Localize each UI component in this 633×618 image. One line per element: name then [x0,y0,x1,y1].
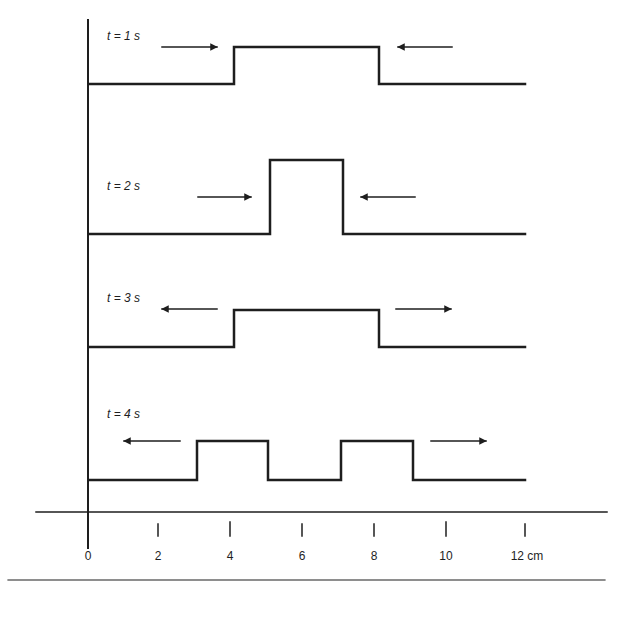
panel-label-t3: t = 3 s [107,291,140,305]
diagram-canvas [0,0,633,618]
tick-label-0: 0 [85,549,92,563]
axis-ticks [158,522,525,536]
pulse-waveform-t3 [90,310,525,347]
panel-label-t4: t = 4 s [107,407,140,421]
pulse-superposition-diagram: t = 1 s t = 2 s t = 3 s t = 4 s 0 2 4 6 … [0,0,633,618]
pulse-waveform-t2 [90,160,525,234]
pulse-waveform-t1 [90,47,525,84]
tick-label-4: 4 [227,549,234,563]
pulse-waveform-t4 [90,441,525,480]
tick-label-6: 6 [299,549,306,563]
tick-label-2: 2 [155,549,162,563]
panel-label-t2: t = 2 s [107,179,140,193]
panel-label-t1: t = 1 s [107,29,140,43]
tick-label-8: 8 [371,549,378,563]
tick-label-12: 12 cm [511,549,544,563]
tick-label-10: 10 [439,549,452,563]
